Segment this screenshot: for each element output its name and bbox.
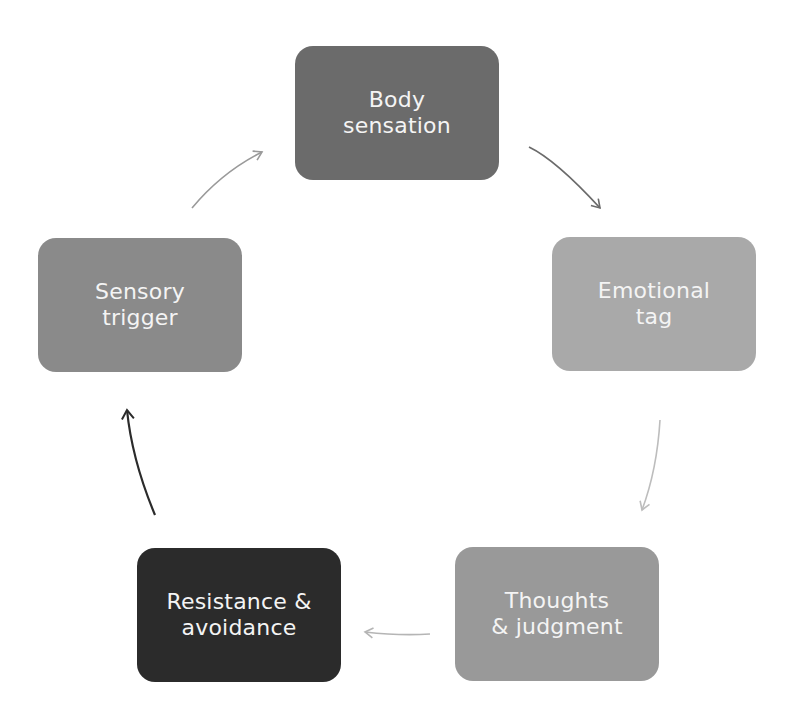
node-sensory-trigger: Sensory trigger [38,238,242,372]
node-label-line1: Resistance & [166,589,311,615]
node-label-line2: trigger [95,305,185,331]
arrow-thoughts-to-resistance [365,632,430,635]
node-emotional-tag: Emotional tag [552,237,756,371]
arrow-sensory-to-body [192,152,262,208]
node-label-line2: & judgment [491,614,623,640]
node-label-line2: avoidance [166,615,311,641]
node-label-line2: tag [598,304,710,330]
arrow-emotional-to-thoughts [642,420,660,510]
arrow-resistance-to-sensory [127,410,155,515]
node-label-line1: Sensory [95,279,185,305]
arrow-body-to-emotional [529,147,600,208]
node-body-sensation: Body sensation [295,46,499,180]
node-resistance-avoidance: Resistance & avoidance [137,548,341,682]
node-thoughts-judgment: Thoughts & judgment [455,547,659,681]
node-label-line1: Emotional [598,278,710,304]
node-label-line2: sensation [343,113,451,139]
node-label-line1: Thoughts [491,588,623,614]
node-label-line1: Body [343,87,451,113]
